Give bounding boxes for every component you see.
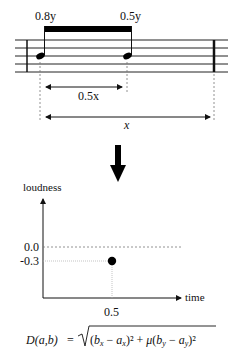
half-interval-label: 0.5x <box>78 89 99 103</box>
music-staff <box>15 40 228 72</box>
distance-formula: D(a,b) = (bx − ax)² + μ(by − ay)² <box>25 326 216 348</box>
y-tick-neg03: -0.3 <box>20 254 39 268</box>
y-tick-0: 0.0 <box>24 240 39 254</box>
data-point <box>108 257 116 265</box>
svg-text:=: = <box>67 333 74 347</box>
x-tick-05: 0.5 <box>104 305 119 319</box>
y-axis-label: loudness <box>23 181 62 193</box>
dashed-guides <box>40 62 214 120</box>
svg-text:(bx − ax)² + μ(by − ay)²: (bx − ax)² + μ(by − ay)² <box>90 333 196 348</box>
diagram-canvas: 0.8y 0.5y 0.5x x loudness time 0.0 -0.3 … <box>0 0 238 357</box>
x-axis-label: time <box>185 291 205 303</box>
transform-down-arrow-icon <box>110 145 126 182</box>
svg-text:D(a,b): D(a,b) <box>25 333 58 347</box>
beam-label-left: 0.8y <box>35 9 56 23</box>
full-interval-label: x <box>123 118 130 132</box>
beam <box>44 26 132 32</box>
beam-label-right: 0.5y <box>120 9 141 23</box>
